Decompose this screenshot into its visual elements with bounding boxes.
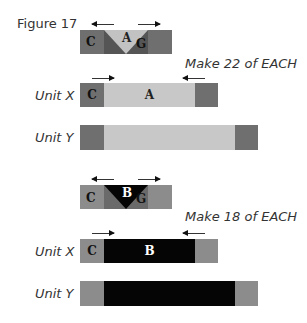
flying-geese-block-a: C A G bbox=[80, 30, 172, 54]
unit-y-left-end bbox=[80, 281, 104, 306]
block-left-letter: C bbox=[86, 191, 96, 205]
block-left-letter: C bbox=[86, 35, 96, 49]
block-center-letter: B bbox=[122, 186, 132, 200]
figure-title: Figure 17 bbox=[17, 16, 77, 31]
unit-x-label: Unit X bbox=[35, 244, 75, 259]
unit-y-label: Unit Y bbox=[35, 286, 74, 301]
arrow-left-icon bbox=[92, 179, 114, 180]
flying-geese-block-b: C B G bbox=[80, 185, 172, 209]
unit-x-right-end bbox=[195, 83, 218, 107]
block-center-letter: A bbox=[122, 31, 131, 45]
unit-y-left-end bbox=[80, 125, 104, 150]
instruction-text: Make 22 of EACH bbox=[185, 56, 297, 71]
unit-y-right-end bbox=[235, 281, 258, 306]
unit-x-left-end: C bbox=[80, 239, 104, 263]
unit-y-label: Unit Y bbox=[35, 130, 74, 145]
block-right-letter: G bbox=[136, 192, 146, 206]
unit-y-right-end bbox=[235, 125, 258, 150]
unit-y-bar bbox=[80, 125, 258, 150]
instruction-text: Make 18 of EACH bbox=[185, 209, 297, 224]
arrow-right-icon bbox=[138, 179, 160, 180]
unit-y-bar bbox=[80, 281, 258, 306]
block-right-letter: G bbox=[136, 37, 146, 51]
unit-x-bar: C B bbox=[80, 239, 218, 263]
arrow-right-icon bbox=[92, 78, 114, 79]
unit-x-center: B bbox=[104, 239, 195, 263]
unit-x-right-end bbox=[195, 239, 218, 263]
unit-x-bar: C A bbox=[80, 83, 218, 107]
unit-x-left-end: C bbox=[80, 83, 104, 107]
arrow-left-icon bbox=[183, 78, 205, 79]
arrow-left-icon bbox=[92, 24, 114, 25]
arrow-right-icon bbox=[138, 24, 160, 25]
arrow-left-icon bbox=[183, 233, 205, 234]
unit-y-center bbox=[104, 125, 235, 150]
arrow-right-icon bbox=[92, 233, 114, 234]
unit-x-label: Unit X bbox=[35, 88, 75, 103]
unit-x-center: A bbox=[104, 83, 195, 107]
unit-y-center bbox=[104, 281, 235, 306]
